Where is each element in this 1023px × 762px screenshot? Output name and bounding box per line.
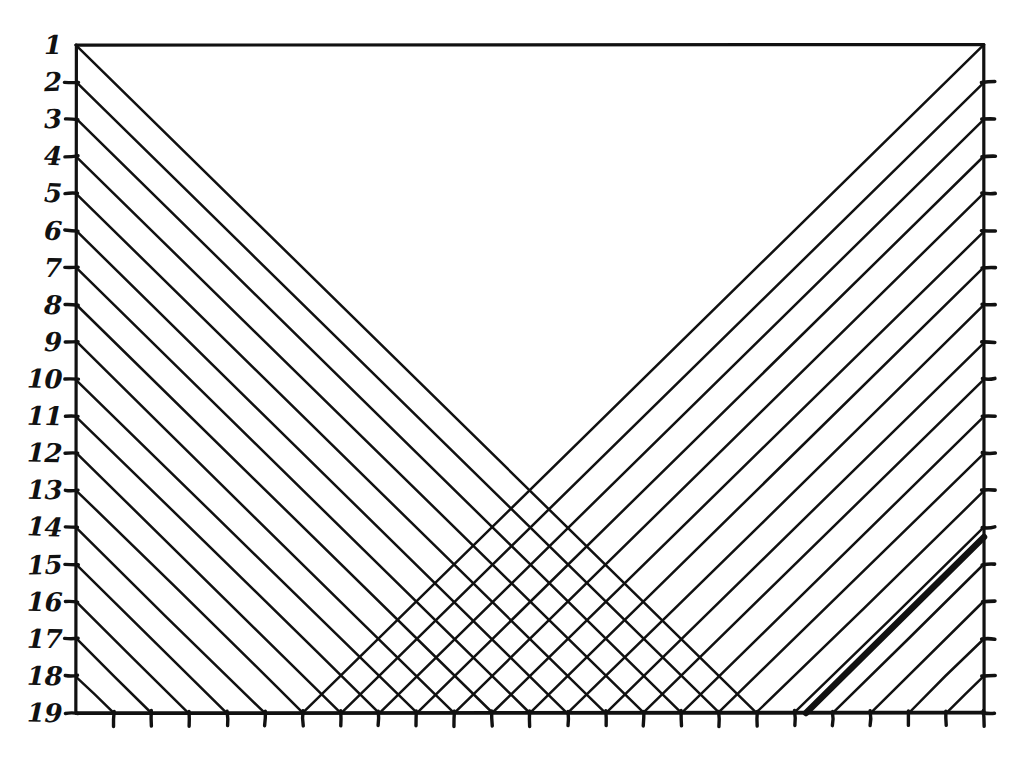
y-axis-label-8: 8 — [44, 291, 63, 318]
y-axis-label-14: 14 — [26, 514, 62, 541]
y-axis-label-15: 15 — [26, 551, 62, 578]
y-axis-label-13: 13 — [27, 477, 62, 503]
y-axis-label-6: 6 — [44, 217, 63, 244]
y-axis-label-4: 4 — [44, 143, 62, 169]
y-axis-label-10: 10 — [26, 366, 62, 393]
y-axis-label-2: 2 — [44, 69, 62, 95]
y-axis-label-12: 12 — [26, 440, 62, 467]
y-axis-label-5: 5 — [44, 180, 63, 207]
y-axis-label-3: 3 — [44, 106, 62, 133]
lattice-svg — [0, 0, 1023, 762]
figure-canvas: 12345678910111213141516171819 — [0, 0, 1023, 762]
y-axis-label-11: 11 — [27, 403, 63, 430]
y-axis-label-7: 7 — [44, 255, 62, 281]
y-axis-label-19: 19 — [27, 700, 63, 727]
y-axis-label-18: 18 — [27, 663, 63, 690]
y-axis-label-9: 9 — [44, 329, 62, 355]
y-axis-label-1: 1 — [44, 32, 62, 58]
y-axis-label-16: 16 — [27, 588, 63, 615]
y-axis-label-17: 17 — [27, 626, 63, 653]
plot-frame — [76, 45, 984, 714]
diagonal-line-group — [76, 45, 985, 714]
